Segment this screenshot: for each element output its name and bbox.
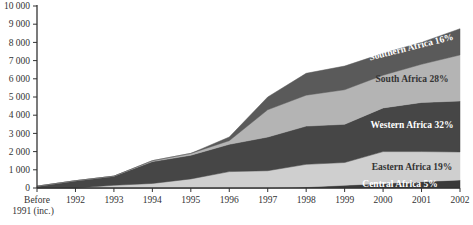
y-tick-label: 8 000	[9, 38, 31, 48]
x-tick-label: 1994	[143, 195, 162, 205]
y-tick-label: 0	[25, 183, 30, 193]
x-axis: Before1991 (inc.)19921993199419951996199…	[12, 188, 470, 217]
x-tick-label: 1993	[104, 195, 123, 205]
label-eastern-africa: Eastern Africa 19%	[372, 162, 453, 172]
y-tick-label: 4 000	[9, 110, 31, 120]
y-axis: 01 0002 0003 0004 0005 0006 0007 0008 00…	[4, 1, 37, 193]
y-tick-label: 1 000	[9, 165, 31, 175]
y-tick-label: 9 000	[9, 19, 31, 29]
label-south-africa: South Africa 28%	[376, 74, 449, 84]
y-tick-label: 7 000	[9, 56, 31, 66]
y-tick-label: 5 000	[9, 92, 31, 102]
x-tick-label: 1997	[258, 195, 277, 205]
x-tick-label: 1992	[66, 195, 85, 205]
y-tick-label: 6 000	[9, 74, 31, 84]
x-tick-label: 1995	[181, 195, 200, 205]
x-tick-label: 1998	[297, 195, 316, 205]
x-tick-label: 2001	[412, 195, 431, 205]
x-tick-label: 1999	[335, 195, 354, 205]
label-western-africa: Western Africa 32%	[371, 120, 454, 130]
stacked-area-chart: Central Africa 5%Eastern Africa 19%Weste…	[0, 0, 473, 225]
x-tick-label: 2002	[451, 195, 470, 205]
y-tick-label: 3 000	[9, 129, 31, 139]
y-tick-label: 2 000	[9, 147, 31, 157]
x-tick-label: 1996	[220, 195, 239, 205]
x-tick-label: 1991 (inc.)	[12, 206, 54, 217]
x-tick-label: Before	[24, 195, 50, 205]
x-tick-label: 2000	[374, 195, 393, 205]
y-tick-label: 10 000	[4, 1, 30, 11]
